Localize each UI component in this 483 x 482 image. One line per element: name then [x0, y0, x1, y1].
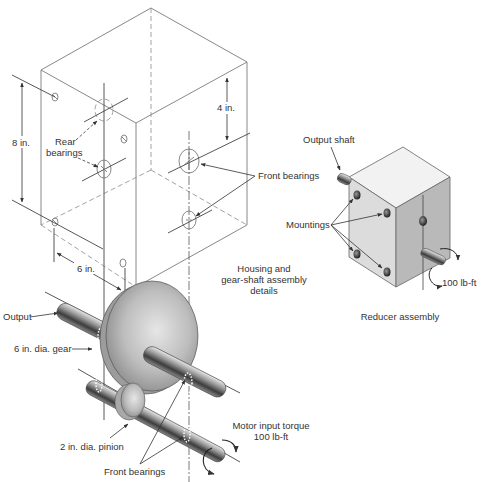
svg-text:Rear: Rear: [55, 136, 76, 147]
dimension-4in: 4 in.: [215, 78, 241, 140]
svg-text:Front bearings: Front bearings: [104, 466, 166, 477]
svg-text:bearings: bearings: [46, 147, 83, 158]
front-bearings-housing-label: Front bearings: [196, 164, 320, 216]
svg-text:6 in. dia. gear: 6 in. dia. gear: [14, 343, 72, 354]
reducer-box: [349, 147, 450, 290]
svg-text:Motor input torque: Motor input torque: [232, 420, 309, 431]
gear-label: 6 in. dia. gear: [14, 343, 92, 354]
dimension-8in: 8 in.: [10, 83, 36, 202]
reducer-torque-label: 100 lb-ft: [442, 277, 477, 288]
rear-bearings-label: Rear bearings: [46, 121, 98, 167]
svg-text:100 lb-ft: 100 lb-ft: [442, 277, 477, 288]
svg-text:Output: Output: [3, 311, 32, 322]
output-shaft-label: Output shaft: [303, 134, 355, 170]
svg-text:Reducer assembly: Reducer assembly: [361, 311, 440, 322]
svg-text:100 lb-ft: 100 lb-ft: [254, 431, 289, 442]
svg-text:8 in.: 8 in.: [12, 137, 30, 148]
svg-text:gear-shaft assembly: gear-shaft assembly: [221, 274, 307, 285]
svg-text:Front bearings: Front bearings: [258, 170, 320, 181]
svg-text:Housing and: Housing and: [237, 263, 290, 274]
output-shaft-assembly: [45, 281, 240, 400]
pinion-label: 2 in. dia. pinion: [60, 424, 128, 452]
motor-input-torque-label: Motor input torque 100 lb-ft: [232, 420, 309, 442]
svg-text:6 in.: 6 in.: [77, 263, 95, 274]
svg-text:4 in.: 4 in.: [217, 102, 235, 113]
output-label: Output: [3, 311, 58, 322]
svg-text:Output shaft: Output shaft: [303, 134, 355, 145]
dimension-6in: 6 in.: [57, 253, 121, 290]
housing-caption: Housing and gear-shaft assembly details: [221, 263, 307, 296]
diagram-canvas: 8 in. 4 in. 6 in. Rear bearings Front be…: [0, 0, 483, 482]
svg-text:details: details: [250, 285, 278, 296]
svg-text:2 in. dia. pinion: 2 in. dia. pinion: [60, 441, 124, 452]
reducer-caption: Reducer assembly: [361, 311, 440, 322]
svg-text:Mountings: Mountings: [286, 219, 330, 230]
